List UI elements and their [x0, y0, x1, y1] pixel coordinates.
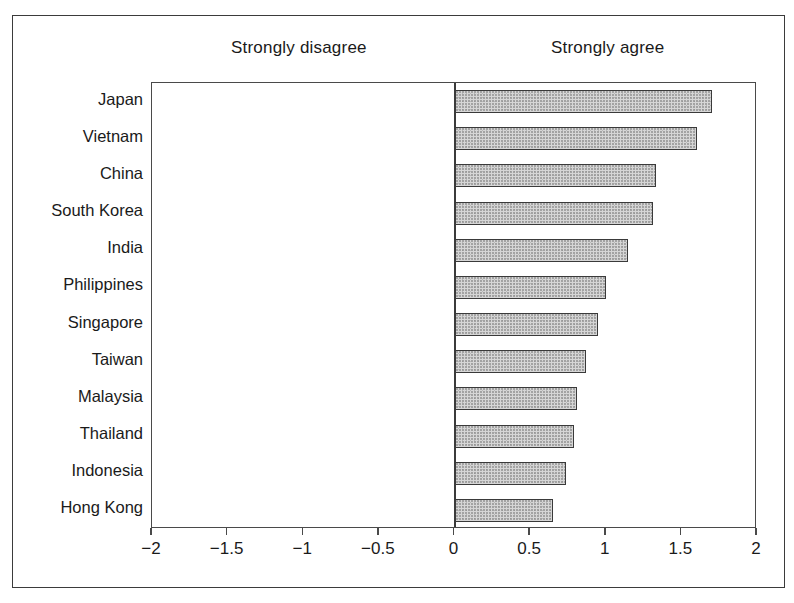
- x-axis-tick-label: 0: [449, 539, 458, 559]
- x-axis-tick-label: 1.5: [669, 539, 693, 559]
- x-axis: −2−1.5−1−0.500.511.52: [151, 528, 756, 578]
- zero-baseline: [454, 83, 456, 527]
- bar[interactable]: [455, 425, 574, 448]
- x-axis-tick-label: 1: [600, 539, 609, 559]
- x-axis-tick-label: −2: [141, 539, 160, 559]
- y-axis-category-labels: JapanVietnamChinaSouth KoreaIndiaPhilipp…: [0, 82, 143, 528]
- y-axis-label-indonesia: Indonesia: [0, 461, 143, 480]
- bar[interactable]: [455, 387, 578, 410]
- y-axis-label-thailand: Thailand: [0, 424, 143, 443]
- x-axis-tick-label: −1: [293, 539, 312, 559]
- plot-area: [152, 83, 755, 527]
- bar[interactable]: [455, 164, 656, 187]
- x-axis-tick: [302, 528, 304, 535]
- bar[interactable]: [455, 90, 712, 113]
- x-axis-tick-label: −0.5: [361, 539, 395, 559]
- x-axis-tick-label: 0.5: [517, 539, 541, 559]
- x-axis-tick: [680, 528, 682, 535]
- bar[interactable]: [455, 350, 587, 373]
- x-axis-tick-label: 2: [751, 539, 760, 559]
- bar[interactable]: [455, 276, 606, 299]
- x-axis-tick-label: −1.5: [210, 539, 244, 559]
- y-axis-label-hong-kong: Hong Kong: [0, 498, 143, 517]
- x-axis-tick: [377, 528, 379, 535]
- y-axis-label-taiwan: Taiwan: [0, 350, 143, 369]
- y-axis-label-china: China: [0, 164, 143, 183]
- x-axis-tick: [755, 528, 757, 535]
- annotation-strongly-disagree: Strongly disagree: [231, 38, 367, 58]
- y-axis-label-malaysia: Malaysia: [0, 387, 143, 406]
- annotation-strongly-agree: Strongly agree: [551, 38, 664, 58]
- bar[interactable]: [455, 499, 553, 522]
- y-axis-label-japan: Japan: [0, 90, 143, 109]
- bar[interactable]: [455, 313, 599, 336]
- y-axis-label-vietnam: Vietnam: [0, 127, 143, 146]
- y-axis-label-india: India: [0, 238, 143, 257]
- figure-container: Strongly disagree Strongly agree JapanVi…: [0, 0, 794, 603]
- axis-annotation-row: Strongly disagree Strongly agree: [0, 38, 794, 68]
- x-axis-tick: [150, 528, 152, 535]
- x-axis-tick: [226, 528, 228, 535]
- bar[interactable]: [455, 462, 567, 485]
- plot-area-frame: [151, 82, 756, 528]
- bar[interactable]: [455, 127, 697, 150]
- y-axis-label-philippines: Philippines: [0, 275, 143, 294]
- x-axis-tick: [604, 528, 606, 535]
- y-axis-label-singapore: Singapore: [0, 313, 143, 332]
- y-axis-label-south-korea: South Korea: [0, 201, 143, 220]
- x-axis-tick: [453, 528, 455, 535]
- bar[interactable]: [455, 202, 653, 225]
- x-axis-tick: [528, 528, 530, 535]
- bar[interactable]: [455, 239, 629, 262]
